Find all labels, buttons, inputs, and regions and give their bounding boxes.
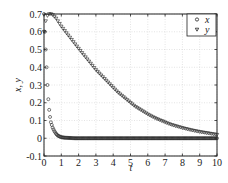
x-tick-label: 3 [93,157,98,168]
x-tick-label: 6 [145,157,150,168]
legend-label-y: y [204,24,210,35]
y-tick-label: 0.2 [30,97,43,108]
x-tick-label: 4 [111,157,116,168]
y-axis-label: x, y [12,78,23,93]
x-axis-label: t [130,162,133,173]
y-tick-label: -0.1 [26,151,42,162]
y-tick-label: 0.4 [30,62,43,73]
y-tick-label: 0.5 [30,44,43,55]
x-tick-label: 8 [180,157,185,168]
x-tick-label: 0 [42,157,47,168]
legend-box [187,14,216,36]
y-tick-label: 0.7 [30,9,43,20]
x-tick-label: 2 [76,157,81,168]
y-tick-label: 0 [37,133,42,144]
chart: 012345678910 -0.100.10.20.30.40.50.60.7 … [0,0,228,183]
y-tick-label: 0.1 [30,115,43,126]
x-tick-label: 10 [212,157,222,168]
legend: x y [187,14,216,36]
x-tick-label: 1 [59,157,64,168]
y-tick-label: 0.6 [30,26,43,37]
x-tick-label: 7 [163,157,168,168]
x-tick-label: 9 [197,157,202,168]
y-tick-label: 0.3 [30,80,43,91]
